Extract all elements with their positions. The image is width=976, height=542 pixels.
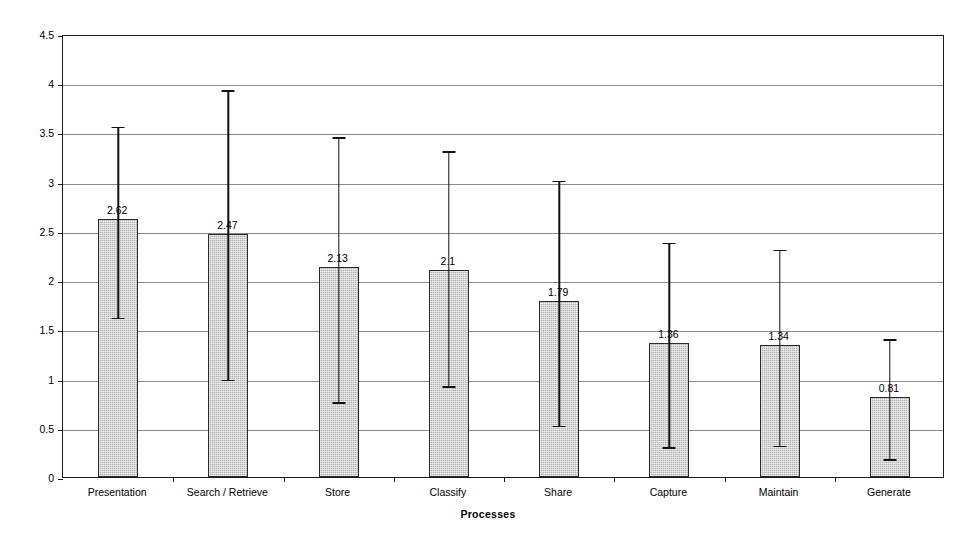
y-axis-title: Mean Score (n=58) xyxy=(16,0,42,26)
error-bar-cap-upper xyxy=(773,250,786,252)
error-bar-line xyxy=(228,90,229,379)
y-axis-tick-label: 4.5 xyxy=(8,29,54,41)
y-axis-tick-mark xyxy=(58,381,63,382)
error-bar-line xyxy=(779,250,780,446)
bar-value-label: 2.13 xyxy=(327,252,347,264)
error-bar-line xyxy=(669,243,670,448)
x-axis-title: Processes xyxy=(0,508,976,520)
x-axis-category-label: Capture xyxy=(650,486,687,498)
error-bar-line xyxy=(338,137,339,402)
error-bar-cap-lower xyxy=(883,459,896,461)
gridline xyxy=(63,331,943,332)
x-axis-tick-mark xyxy=(835,477,836,482)
error-bar-cap-upper xyxy=(442,151,455,153)
error-bar-cap-lower xyxy=(663,447,676,449)
x-axis-category-label: Generate xyxy=(867,486,911,498)
x-axis-tick-mark xyxy=(614,477,615,482)
y-axis-tick-label: 0 xyxy=(8,472,54,484)
y-axis-tick-label: 1 xyxy=(8,374,54,386)
gridline xyxy=(63,85,943,86)
y-axis-tick-label: 2 xyxy=(8,275,54,287)
x-axis-category-label: Maintain xyxy=(759,486,799,498)
gridline xyxy=(63,381,943,382)
error-bar-line xyxy=(117,127,118,318)
bar-value-label: 0.81 xyxy=(879,382,899,394)
y-axis-tick-label: 0.5 xyxy=(8,423,54,435)
x-axis-tick-mark xyxy=(725,477,726,482)
bar-value-label: 2.1 xyxy=(441,255,456,267)
error-bar-cap-lower xyxy=(112,318,125,320)
gridline xyxy=(63,233,943,234)
y-axis-tick-mark xyxy=(58,134,63,135)
y-axis-tick-label: 3 xyxy=(8,177,54,189)
y-axis-tick-mark xyxy=(58,430,63,431)
x-axis-tick-mark xyxy=(504,477,505,482)
bar-value-label: 2.62 xyxy=(107,204,127,216)
error-bar-cap-upper xyxy=(553,181,566,183)
gridline xyxy=(63,134,943,135)
x-axis-tick-mark xyxy=(284,477,285,482)
error-bar-cap-lower xyxy=(773,446,786,448)
error-bar-cap-upper xyxy=(663,243,676,245)
plot-area xyxy=(62,35,944,478)
bar-value-label: 1.36 xyxy=(658,328,678,340)
bar-chart: Mean Score (n=58) Processes 00.511.522.5… xyxy=(0,0,976,542)
error-bar-cap-lower xyxy=(332,402,345,404)
x-axis-category-label: Store xyxy=(325,486,350,498)
x-axis-category-label: Search / Retrieve xyxy=(187,486,268,498)
error-bar-line xyxy=(448,151,449,386)
y-axis-tick-mark xyxy=(58,184,63,185)
y-axis-tick-mark xyxy=(58,282,63,283)
bar-value-label: 1.79 xyxy=(548,286,568,298)
error-bar-cap-upper xyxy=(112,127,125,129)
error-bar-cap-upper xyxy=(222,90,235,92)
x-axis-tick-mark xyxy=(173,477,174,482)
error-bar-cap-upper xyxy=(332,137,345,139)
x-axis-category-label: Share xyxy=(544,486,572,498)
y-axis-tick-label: 4 xyxy=(8,78,54,90)
bar-value-label: 2.47 xyxy=(217,219,237,231)
error-bar-cap-upper xyxy=(883,339,896,341)
y-axis-tick-label: 1.5 xyxy=(8,324,54,336)
y-axis-tick-label: 3.5 xyxy=(8,127,54,139)
x-axis-category-label: Classify xyxy=(429,486,466,498)
y-axis-tick-mark xyxy=(58,233,63,234)
y-axis-tick-mark xyxy=(58,85,63,86)
x-axis-tick-mark xyxy=(394,477,395,482)
error-bar-line xyxy=(889,339,890,459)
y-axis-tick-mark xyxy=(58,331,63,332)
y-axis-tick-mark xyxy=(58,479,63,480)
gridline xyxy=(63,282,943,283)
y-axis-tick-label: 2.5 xyxy=(8,226,54,238)
error-bar-line xyxy=(558,181,559,426)
error-bar-cap-lower xyxy=(442,386,455,388)
error-bar-cap-lower xyxy=(222,380,235,382)
gridline xyxy=(63,184,943,185)
x-axis-category-label: Presentation xyxy=(88,486,147,498)
gridline xyxy=(63,430,943,431)
error-bar-cap-lower xyxy=(553,426,566,428)
bar-value-label: 1.34 xyxy=(768,330,788,342)
y-axis-tick-mark xyxy=(58,36,63,37)
